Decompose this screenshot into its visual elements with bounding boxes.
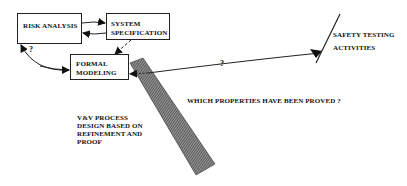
- safety-testing-line2: ACTIVITIES: [333, 44, 375, 52]
- vv-process-line1: V&V PROCESS: [77, 114, 128, 122]
- node-system-specification-line1: SYSTEM: [111, 20, 169, 29]
- edge-label-safety-formal: ?: [220, 60, 224, 68]
- vv-process-diagram: RISK ANALYSIS SYSTEM SPECIFICATION FORMA…: [0, 0, 407, 186]
- arrow-safety-to-formal: [148, 53, 320, 73]
- which-properties-question: WHICH PROPERTIES HAVE BEEN PROVED ?: [187, 97, 341, 105]
- safety-testing-line1: SAFETY TESTING: [333, 31, 395, 39]
- edge-label-risk-formal: ?: [29, 46, 33, 54]
- vv-process-line4: PROOF: [77, 138, 102, 146]
- node-risk-analysis: RISK ANALYSIS: [17, 13, 82, 44]
- node-risk-analysis-label: RISK ANALYSIS: [23, 22, 81, 31]
- arrow-risk-to-spec: [82, 22, 105, 23]
- arrow-spec-to-risk: [83, 33, 106, 34]
- vv-process-line3: REFINEMENT AND: [77, 130, 142, 138]
- vv-process-line2: DESIGN BASED ON: [77, 122, 143, 130]
- node-formal-modeling-line2: MODELING: [76, 69, 128, 78]
- node-formal-modeling: FORMAL MODELING: [70, 54, 129, 80]
- vv-process-bar: [130, 58, 215, 175]
- node-system-specification-line2: SPECIFICATION: [111, 29, 169, 38]
- arrowhead-into-formal: [40, 66, 69, 70]
- arrow-spec-to-formal-dashed: [115, 40, 131, 54]
- node-system-specification: SYSTEM SPECIFICATION: [106, 13, 170, 40]
- node-formal-modeling-line1: FORMAL: [76, 60, 128, 69]
